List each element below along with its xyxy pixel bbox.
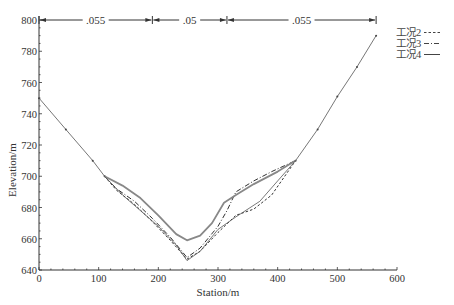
axes: 0100200300400500600640660680700720740760… bbox=[21, 15, 405, 284]
y-tick-label: 800 bbox=[21, 15, 37, 26]
series-line-dashdot bbox=[105, 161, 296, 258]
terrain-point bbox=[336, 96, 338, 98]
x-tick-label: 200 bbox=[150, 273, 166, 284]
terrain-left-line bbox=[39, 98, 105, 176]
terrain-point bbox=[65, 128, 67, 130]
series-lines bbox=[38, 35, 377, 261]
y-tick-label: 700 bbox=[21, 171, 37, 182]
roughness-region: .05 bbox=[153, 14, 227, 26]
legend-label: 工况4 bbox=[396, 49, 422, 60]
region-label: .05 bbox=[183, 14, 197, 26]
legend-label: 工况3 bbox=[396, 38, 421, 49]
x-tick-label: 0 bbox=[36, 273, 41, 284]
y-tick-label: 660 bbox=[21, 234, 37, 245]
y-tick-label: 760 bbox=[21, 78, 37, 89]
arrowhead-left-icon bbox=[40, 18, 46, 22]
arrowhead-left-icon bbox=[228, 18, 234, 22]
roughness-regions: .055.05.055 bbox=[39, 14, 376, 26]
elevation-chart: 0100200300400500600640660680700720740760… bbox=[0, 0, 454, 305]
x-tick-label: 500 bbox=[329, 273, 345, 284]
x-tick-label: 600 bbox=[389, 273, 405, 284]
legend: 工况2工况3工况4 bbox=[396, 27, 440, 60]
y-axis-title: Elevation/m bbox=[6, 143, 18, 197]
y-tick-label: 720 bbox=[21, 140, 37, 151]
arrowhead-left-icon bbox=[153, 18, 159, 22]
roughness-region: .055 bbox=[228, 14, 376, 26]
terrain-point bbox=[38, 97, 40, 99]
region-label: .055 bbox=[86, 14, 106, 26]
series-line-thin bbox=[105, 161, 296, 261]
y-tick-label: 740 bbox=[21, 109, 37, 120]
terrain-point bbox=[356, 66, 358, 68]
region-label: .055 bbox=[292, 14, 312, 26]
roughness-region: .055 bbox=[39, 14, 152, 26]
series-line-dashed bbox=[105, 161, 296, 260]
y-tick-label: 640 bbox=[21, 265, 37, 276]
arrowhead-right-icon bbox=[369, 18, 375, 22]
terrain-point bbox=[375, 35, 377, 37]
y-tick-label: 780 bbox=[21, 46, 37, 57]
terrain-right-line bbox=[296, 36, 377, 161]
x-axis-title: Station/m bbox=[197, 286, 240, 298]
legend-label: 工况2 bbox=[396, 27, 421, 38]
y-tick-label: 680 bbox=[21, 203, 37, 214]
x-tick-label: 300 bbox=[210, 273, 226, 284]
terrain-point bbox=[317, 128, 319, 130]
x-tick-label: 400 bbox=[270, 273, 286, 284]
arrowhead-right-icon bbox=[145, 18, 151, 22]
arrowhead-right-icon bbox=[220, 18, 226, 22]
terrain-point bbox=[92, 160, 94, 162]
x-tick-label: 100 bbox=[91, 273, 107, 284]
